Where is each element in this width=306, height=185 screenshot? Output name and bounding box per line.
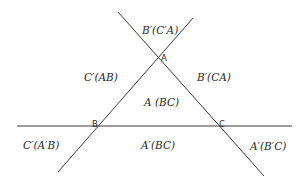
region-lower-center-label: A′(BC) <box>140 139 175 151</box>
vertex-c-label: C <box>219 119 225 129</box>
region-lower-left-label: C′(A′B) <box>23 139 59 151</box>
region-lower-right-label: A′(B′C) <box>249 140 286 152</box>
region-top-label: B′(C′A) <box>141 24 178 36</box>
vertex-a-label: A <box>161 53 167 63</box>
region-upper-left-label: C′(AB) <box>84 71 118 83</box>
line-ac <box>118 12 264 176</box>
vertex-b-label: B <box>92 119 98 129</box>
region-upper-right-label: B′(CA) <box>196 71 231 83</box>
region-center-label: A (BC) <box>143 96 179 108</box>
triangle-region-diagram: A B C B′(C′A) C′(AB) B′(CA) A (BC) C′(A′… <box>0 0 306 185</box>
